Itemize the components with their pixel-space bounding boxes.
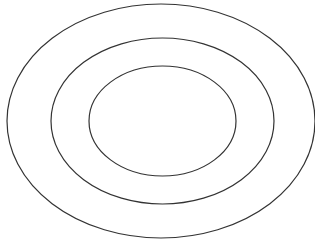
- diagram-canvas: [0, 0, 315, 244]
- outer-ellipse: [7, 4, 315, 238]
- concentric-ellipses-diagram: [0, 0, 315, 244]
- middle-ellipse: [51, 38, 274, 204]
- inner-ellipse: [89, 66, 236, 176]
